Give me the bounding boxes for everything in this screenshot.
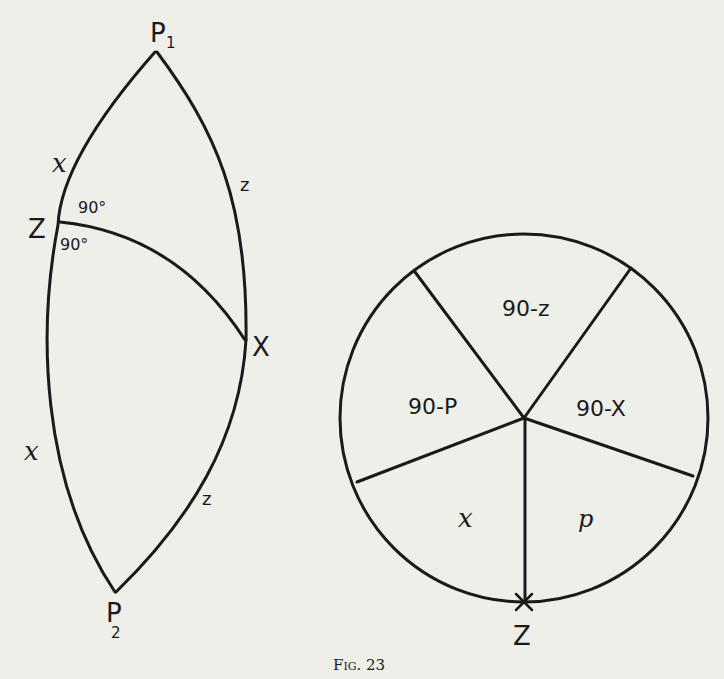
spherical-triangle-diagram bbox=[47, 52, 246, 592]
segment-label-bottom-right: p bbox=[578, 505, 593, 533]
arc-x-p2 bbox=[116, 340, 246, 592]
side-label-upper-left: x bbox=[52, 148, 67, 178]
angle-label-lower: 90° bbox=[60, 235, 88, 254]
vertex-x-label: X bbox=[252, 332, 270, 362]
angle-label-upper: 90° bbox=[78, 198, 106, 217]
vertex-p1-subscript: 1 bbox=[166, 34, 176, 52]
figure-canvas: P 1 Z X P 2 x z x z 90° 90° 90-z 90-P 90… bbox=[0, 0, 724, 679]
segment-label-bottom-left: x bbox=[458, 503, 473, 533]
figure-caption: Fig. 23 bbox=[333, 656, 385, 674]
side-label-lower-left: x bbox=[24, 436, 39, 466]
napier-circle-diagram bbox=[340, 234, 708, 610]
side-label-lower-right: z bbox=[202, 488, 211, 509]
segment-label-right: 90-X bbox=[576, 396, 626, 421]
side-label-upper-right: z bbox=[240, 174, 249, 195]
segment-label-left: 90-P bbox=[408, 394, 457, 419]
vertex-z-label: Z bbox=[28, 214, 46, 244]
segment-label-top: 90-z bbox=[502, 296, 549, 321]
arc-p1-z-p2 bbox=[47, 52, 155, 592]
bottom-point-label: Z bbox=[513, 621, 531, 651]
vertex-p2-subscript: 2 bbox=[111, 624, 121, 642]
spoke-left bbox=[357, 418, 524, 482]
spoke-right bbox=[524, 418, 693, 476]
vertex-p1-label: P bbox=[150, 18, 166, 48]
arc-p1-x bbox=[157, 52, 246, 340]
